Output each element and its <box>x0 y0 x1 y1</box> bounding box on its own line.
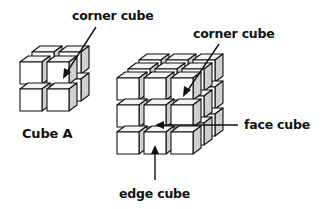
label-face-cube: face cube <box>244 117 310 132</box>
small-cube <box>47 56 77 84</box>
small-cube <box>144 126 174 154</box>
small-cube <box>117 126 147 154</box>
small-cube <box>144 99 174 127</box>
small-cube <box>117 72 147 100</box>
small-cube <box>47 83 77 111</box>
small-cube <box>171 126 201 154</box>
small-cube <box>20 56 50 84</box>
cube-b-assembly <box>117 54 223 154</box>
label-edge-cube: edge cube <box>119 186 190 201</box>
label-corner-cube-b: corner cube <box>193 26 275 41</box>
cube-a-assembly <box>20 46 89 111</box>
small-cube <box>20 83 50 111</box>
small-cube <box>144 72 174 100</box>
label-corner-cube-a: corner cube <box>72 8 154 23</box>
cube-diagram <box>0 0 324 209</box>
label-cube-a: Cube A <box>22 126 72 141</box>
small-cube <box>117 99 147 127</box>
small-cube <box>171 99 201 127</box>
